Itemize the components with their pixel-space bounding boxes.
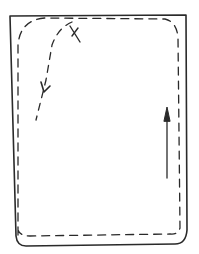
outer-boundary	[10, 15, 187, 246]
sketch-canvas	[0, 0, 199, 254]
x-marker-icon	[70, 26, 80, 42]
dashed-inner-path	[18, 18, 180, 236]
arrow-up-icon	[164, 107, 170, 121]
dashed-curve-path	[36, 22, 72, 120]
